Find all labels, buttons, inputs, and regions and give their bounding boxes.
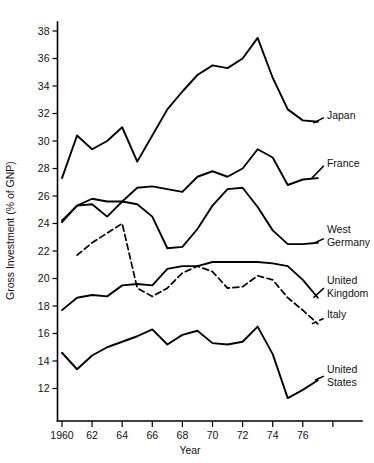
series-label-west-germany: West (327, 223, 351, 235)
series-leader-france (312, 166, 324, 178)
series-leader-united-states (315, 376, 324, 380)
x-tick-label: 70 (207, 429, 219, 441)
series-leader-west-germany (315, 239, 324, 243)
x-axis: 19606264666870727476 (50, 421, 362, 441)
y-tick-label: 22 (38, 245, 50, 257)
x-tick-label: 72 (237, 429, 249, 441)
x-tick-label: 66 (146, 429, 158, 441)
x-axis-title: Year (179, 444, 201, 456)
series-label-italy: Italy (327, 308, 347, 320)
y-tick-label: 38 (38, 25, 50, 37)
x-tick-label: 68 (177, 429, 189, 441)
series-label-united-states: United (327, 363, 358, 375)
series-line-west-germany (62, 188, 318, 249)
series-label-united-kingdom: United (327, 274, 358, 286)
series-label-united-states: States (327, 376, 357, 388)
y-tick-label: 26 (38, 190, 50, 202)
y-tick-label: 16 (38, 327, 50, 339)
y-tick-label: 14 (38, 355, 50, 367)
series-line-japan (62, 38, 318, 178)
series-label-west-germany: Germany (327, 236, 371, 248)
series-label-group: JapanFranceWestGermanyUnitedKingdomItaly… (327, 109, 371, 388)
x-tick-label: 76 (297, 429, 309, 441)
series-group (62, 38, 324, 398)
y-axis-title: Gross Investment (% of GNP) (4, 161, 16, 300)
y-tick-label: 28 (38, 162, 50, 174)
x-tick-group: 19606264666870727476 (50, 421, 333, 441)
x-tick-label: 64 (116, 429, 128, 441)
series-label-france: France (327, 157, 360, 169)
y-tick-label: 20 (38, 272, 50, 284)
y-tick-label: 36 (38, 52, 50, 64)
y-tick-label: 34 (38, 80, 50, 92)
y-tick-label: 18 (38, 300, 50, 312)
x-tick-label: 62 (86, 429, 98, 441)
series-label-united-kingdom: Kingdom (327, 287, 369, 299)
y-tick-label: 30 (38, 135, 50, 147)
series-line-united-states (62, 327, 318, 399)
y-tick-label: 32 (38, 107, 50, 119)
x-tick-label: 1960 (50, 429, 74, 441)
x-tick-label: 74 (267, 429, 279, 441)
y-axis: 1214161820222426283032343638 (38, 22, 58, 421)
y-tick-label: 12 (38, 382, 50, 394)
line-chart: 1214161820222426283032343638 19606264666… (0, 0, 374, 463)
chart-container: 1214161820222426283032343638 19606264666… (0, 0, 374, 463)
y-tick-group: 1214161820222426283032343638 (38, 25, 58, 395)
y-tick-label: 24 (38, 217, 50, 229)
series-label-japan: Japan (327, 109, 356, 121)
